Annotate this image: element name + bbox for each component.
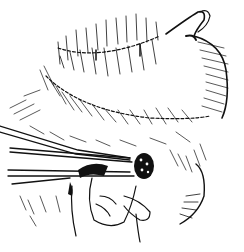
upper-tissue-fringe xyxy=(58,14,160,76)
tissue-mass xyxy=(134,153,154,179)
stomach xyxy=(166,11,228,118)
illustration xyxy=(0,0,244,252)
left-hatching xyxy=(20,196,60,226)
tissue-fold xyxy=(180,164,204,224)
surgical-drawing xyxy=(0,0,244,252)
hand xyxy=(72,178,151,242)
shadow xyxy=(68,164,108,196)
forceps xyxy=(0,126,134,184)
